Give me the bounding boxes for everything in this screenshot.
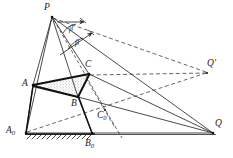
vertex-dot-P <box>51 16 54 19</box>
geometry-figure-container: P A A0 B B0 C C0 Q Q′ β β <box>0 0 233 158</box>
label-point-Qprime-base: Q <box>207 58 214 68</box>
label-point-B: B <box>71 99 77 109</box>
label-point-A: A <box>22 79 28 89</box>
vertex-dot-Qp <box>206 72 208 74</box>
vertex-dot-A <box>32 84 35 87</box>
post-A-A0 <box>26 86 33 133</box>
segment-C-Q <box>89 74 213 133</box>
vertex-dots <box>25 16 215 135</box>
segment-P-A <box>33 17 52 85</box>
label-point-A0-sub: 0 <box>12 129 15 136</box>
vertex-dot-B0 <box>91 132 94 135</box>
dashed-C-Qprime <box>90 73 206 75</box>
vertex-dot-C <box>88 73 91 76</box>
post-B-B0 <box>79 98 92 133</box>
label-point-C: C <box>85 60 91 70</box>
vertex-dot-Q <box>212 132 215 135</box>
geometry-diagram-svg <box>0 0 233 158</box>
label-angle-beta-lower: β <box>75 39 79 47</box>
label-point-B0-sub: 0 <box>91 142 94 149</box>
vertex-dot-A0 <box>25 132 28 135</box>
label-point-A0: A0 <box>6 126 15 136</box>
segment-P-A0 <box>26 17 52 133</box>
vertex-dot-B <box>77 96 80 99</box>
label-point-Qprime-mark: ′ <box>214 58 216 68</box>
segment-P-Q <box>52 17 213 133</box>
label-point-P: P <box>44 3 50 13</box>
label-point-C0: C0 <box>97 111 107 121</box>
label-angle-beta-upper: β <box>69 25 73 33</box>
label-point-Qprime: Q′ <box>207 59 216 69</box>
label-point-Q: Q <box>215 119 222 129</box>
label-point-B0: B0 <box>85 139 94 149</box>
label-point-C0-sub: 0 <box>103 114 106 121</box>
